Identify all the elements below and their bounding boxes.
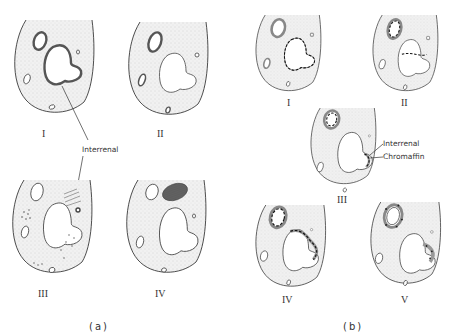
caption-b: (b) [343,321,363,332]
section-a-2 [129,22,208,114]
section-b-2 [373,15,438,91]
label-interrenal-a: Interrenal [82,145,118,154]
leader-line-a3 [78,156,83,183]
numeral-b-2: II [401,97,408,108]
numeral-a-2: II [157,128,164,139]
section-b-1 [256,15,321,91]
numeral-b-3: III [337,194,347,205]
numeral-a-1: I [42,128,45,139]
diagram-figure: I II Interrenal [0,0,452,335]
caption-a: (a) [89,321,109,332]
section-a-1 [15,20,94,112]
label-chromaffin-b: Chromaffin [383,152,425,161]
section-a-4 [127,180,206,273]
panel-b: I II III Interrenal [256,15,441,332]
numeral-a-4: IV [155,288,166,299]
numeral-b-1: I [287,97,290,108]
numeral-b-4: IV [282,294,293,305]
section-b-3 [311,108,376,192]
section-b-5 [371,202,441,286]
section-b-4 [256,205,326,286]
numeral-b-5: V [401,294,409,305]
numeral-a-3: III [38,288,48,299]
label-interrenal-b: Interrenal [383,139,419,148]
section-a-3 [13,180,92,273]
panel-a: I II Interrenal [13,20,208,332]
